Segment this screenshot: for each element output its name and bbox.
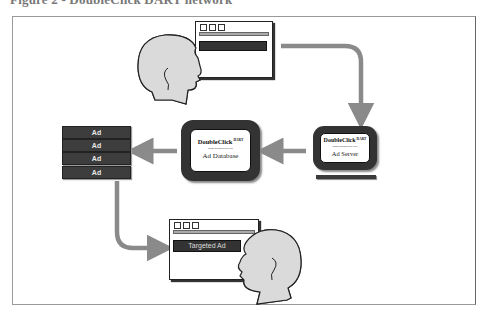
ad-database-box: DoubleClickDART www.doubleclick.net Ad D… <box>181 120 260 181</box>
address-bar <box>173 230 255 234</box>
targeted-ad-slot: Targeted Ad <box>173 240 241 252</box>
doubleclick-logo: DoubleClickDART <box>321 137 369 143</box>
ad-server-monitor: DoubleClickDART www.doubleclick.net Ad S… <box>313 126 377 170</box>
ad-item: Ad <box>62 152 131 165</box>
ad-database-label: Ad Database <box>191 152 250 160</box>
ad-item: Ad <box>62 139 131 152</box>
ad-server-label: Ad Server <box>321 150 369 157</box>
ad-item: Ad <box>62 166 131 179</box>
logo-url: www.doubleclick.net <box>321 145 369 148</box>
browser-window-bottom: Targeted Ad <box>169 219 259 280</box>
window-controls <box>174 222 199 229</box>
ad-slot-empty <box>199 41 267 51</box>
ad-server-base <box>316 175 376 179</box>
ad-item: Ad <box>62 126 131 139</box>
user-head-top-icon <box>138 35 201 104</box>
doubleclick-logo: DoubleClickDART <box>191 138 250 145</box>
arrow-user-to-server <box>281 46 361 116</box>
logo-url: www.doubleclick.net <box>191 147 250 150</box>
window-controls <box>200 24 225 31</box>
browser-window-top <box>195 21 273 78</box>
address-bar <box>199 32 269 36</box>
arrow-adlist-to-user <box>117 181 160 248</box>
